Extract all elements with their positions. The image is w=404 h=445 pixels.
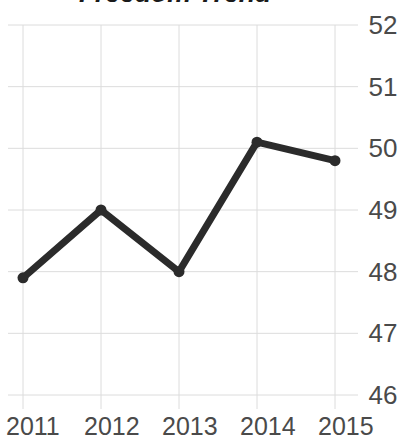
y-axis-tick-label: 50	[362, 135, 404, 161]
x-axis-tick-label: 2013	[162, 414, 218, 439]
vertical-gridlines	[23, 25, 335, 409]
data-point-marker	[96, 205, 107, 216]
line-chart: Freedom Trend 52515049484746 20112012201…	[0, 0, 404, 445]
y-axis-tick-label: 52	[362, 12, 404, 38]
y-axis-tick-label: 46	[362, 382, 404, 408]
y-axis-tick-label: 51	[362, 74, 404, 100]
x-axis-tick-label: 2014	[240, 414, 296, 439]
data-point-marker	[174, 266, 185, 277]
data-point-marker	[18, 272, 29, 283]
plot-area	[0, 0, 360, 410]
plot-svg	[0, 0, 360, 410]
x-axis-tick-label: 2015	[318, 414, 374, 439]
data-point-marker	[252, 137, 263, 148]
y-axis-tick-label: 47	[362, 320, 404, 346]
y-axis-tick-label: 49	[362, 197, 404, 223]
x-axis-tick-label: 2012	[84, 414, 140, 439]
data-point-marker	[330, 155, 341, 166]
x-axis-tick-label: 2011	[6, 414, 60, 439]
y-axis-tick-label: 48	[362, 259, 404, 285]
horizontal-gridlines	[8, 25, 358, 395]
